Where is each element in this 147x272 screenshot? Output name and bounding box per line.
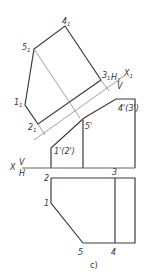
aux-axis-lower-v: V [117,82,123,91]
aux-edge-5-to-5prime [34,49,80,118]
main-axis-label-x: X [9,163,16,172]
label-4: 4 [111,248,116,257]
figure-caption: c) [90,261,98,270]
label-1-1: 11 [14,98,23,108]
top-outline [51,178,135,243]
label-5: 5 [78,248,83,257]
label-5-1: 51 [22,43,31,53]
projection-diagram: 41 51 31 11 21 H1 X1 V 4'(3') 5' 1'(2') … [0,0,147,272]
label-5p: 5' [85,122,92,131]
aux-axis-label-x1: X1 [123,69,133,79]
label-4p-3p: 4'(3') [118,104,139,113]
aux-outline [25,26,101,124]
label-2-1: 21 [28,123,37,133]
label-3-1: 31 [102,71,111,81]
label-1: 1 [44,199,49,208]
aux-axis-x1 [34,76,124,140]
top-view [51,178,135,243]
label-2: 2 [44,174,49,183]
main-axis-upper-v: V [19,158,25,167]
label-1p-2p: 1'(2') [54,147,75,156]
label-3: 3 [112,168,117,177]
label-4-1: 41 [62,17,71,27]
auxiliary-view [25,26,124,140]
main-axis-lower-h: H [19,169,25,178]
